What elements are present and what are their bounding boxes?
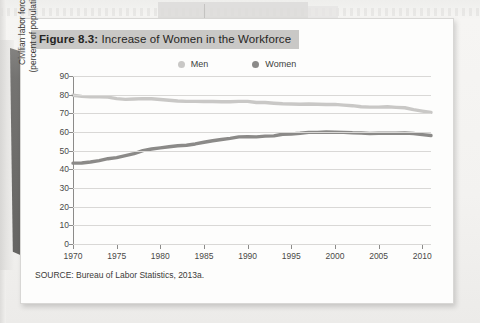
x-tick-label-1995: 1995 xyxy=(282,251,301,261)
y-tick-label-80: 80 xyxy=(47,90,69,100)
x-tick-label-1975: 1975 xyxy=(107,251,126,261)
y-tick-label-0: 0 xyxy=(47,239,69,249)
x-tick-mark-1995 xyxy=(291,245,292,249)
y-tick-label-50: 50 xyxy=(47,146,69,156)
x-tick-label-1980: 1980 xyxy=(151,251,170,261)
source-note: SOURCE: Bureau of Labor Statistics, 2013… xyxy=(35,270,204,280)
y-tick-mark-10 xyxy=(69,225,73,226)
gridline-y-40 xyxy=(73,169,431,170)
series-line-women xyxy=(73,132,431,163)
y-axis-tick-labels: 9080706050403020100 xyxy=(45,76,69,244)
y-tick-mark-30 xyxy=(69,188,73,189)
x-tick-mark-1985 xyxy=(204,245,205,249)
y-tick-label-10: 10 xyxy=(47,220,69,230)
y-tick-label-40: 40 xyxy=(47,164,69,174)
x-tick-mark-1990 xyxy=(248,245,249,249)
scan-artifact-tick xyxy=(204,4,205,18)
y-tick-mark-80 xyxy=(69,95,73,96)
y-tick-mark-70 xyxy=(69,113,73,114)
gridline-y-50 xyxy=(73,151,431,152)
y-tick-mark-60 xyxy=(69,132,73,133)
x-tick-mark-1975 xyxy=(117,245,118,249)
x-tick-mark-2010 xyxy=(422,245,423,249)
plot-area xyxy=(73,76,431,244)
series-container xyxy=(73,76,431,244)
figure-card: Figure 8.3: Increase of Women in the Wor… xyxy=(20,18,454,304)
y-tick-mark-40 xyxy=(69,169,73,170)
y-tick-label-90: 90 xyxy=(47,71,69,81)
x-tick-label-1985: 1985 xyxy=(195,251,214,261)
x-tick-label-1970: 1970 xyxy=(64,251,83,261)
x-tick-mark-1980 xyxy=(160,245,161,249)
y-tick-label-30: 30 xyxy=(47,183,69,193)
gridline-y-30 xyxy=(73,188,431,189)
gridline-y-60 xyxy=(73,132,431,133)
gridline-y-20 xyxy=(73,207,431,208)
x-axis-tick-labels: 197019751980198519901995200020052010 xyxy=(73,245,431,265)
gridline-y-70 xyxy=(73,113,431,114)
x-tick-label-2000: 2000 xyxy=(325,251,344,261)
x-tick-label-2005: 2005 xyxy=(369,251,388,261)
x-tick-label-2010: 2010 xyxy=(413,251,432,261)
x-tick-mark-2005 xyxy=(379,245,380,249)
gridline-y-80 xyxy=(73,95,431,96)
x-tick-mark-2000 xyxy=(335,245,336,249)
x-tick-label-1990: 1990 xyxy=(238,251,257,261)
y-tick-mark-20 xyxy=(69,207,73,208)
y-tick-mark-50 xyxy=(69,151,73,152)
y-tick-label-60: 60 xyxy=(47,127,69,137)
gridline-y-10 xyxy=(73,225,431,226)
line-chart: Civilian labor force (percent of populat… xyxy=(21,19,453,303)
series-line-men xyxy=(73,95,431,112)
x-tick-mark-1970 xyxy=(73,245,74,249)
y-tick-label-70: 70 xyxy=(47,108,69,118)
gridline-y-90 xyxy=(73,76,431,77)
y-tick-mark-90 xyxy=(69,76,73,77)
y-tick-label-20: 20 xyxy=(47,202,69,212)
